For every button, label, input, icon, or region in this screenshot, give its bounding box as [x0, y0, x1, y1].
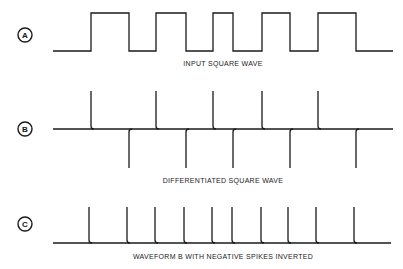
- label-c: C: [22, 220, 28, 229]
- square-wave: [53, 13, 393, 51]
- label-b: B: [22, 125, 28, 134]
- waveform-diagram: A INPUT SQUARE WAVE B DIFFERENTIATED SQU…: [0, 0, 403, 269]
- panel-c: C WAVEFORM B WITH NEGATIVE SPIKES INVERT…: [18, 207, 391, 260]
- panel-b: B DIFFERENTIATED SQUARE WAVE: [18, 91, 393, 185]
- caption-b: DIFFERENTIATED SQUARE WAVE: [163, 177, 283, 185]
- panel-a: A INPUT SQUARE WAVE: [18, 13, 393, 68]
- differentiated-wave: [53, 91, 393, 168]
- label-a: A: [22, 31, 28, 40]
- caption-c: WAVEFORM B WITH NEGATIVE SPIKES INVERTED: [133, 253, 313, 260]
- caption-a: INPUT SQUARE WAVE: [183, 60, 262, 68]
- rectified-spike-wave: [53, 207, 391, 243]
